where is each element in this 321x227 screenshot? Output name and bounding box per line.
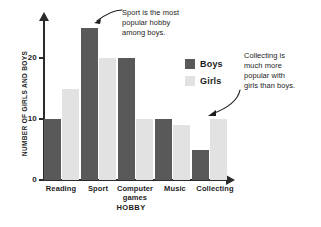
bar-reading-boys xyxy=(44,119,61,180)
annotation-collecting: Collecting is much more popular with gir… xyxy=(244,51,318,91)
x-label-collecting: Collecting xyxy=(189,184,241,193)
legend-label-girls: Girls xyxy=(200,76,222,86)
bar-collecting-boys xyxy=(192,150,209,180)
legend-label-boys: Boys xyxy=(200,59,223,69)
x-axis-title: HOBBY xyxy=(0,203,262,212)
bar-collecting-girls xyxy=(210,119,227,180)
x-label-computer-games-line2: games xyxy=(123,193,147,202)
annotation-collecting-line1: Collecting is xyxy=(244,51,318,61)
bar-reading-girls xyxy=(62,89,79,180)
legend-item-girls: Girls xyxy=(185,75,223,86)
legend-item-boys: Boys xyxy=(185,58,223,69)
legend-swatch-girls-icon xyxy=(185,76,195,86)
legend: Boys Girls xyxy=(185,58,223,92)
y-axis-arrowhead xyxy=(39,12,49,21)
bar-music-boys xyxy=(155,119,172,180)
legend-swatch-boys-icon xyxy=(185,59,195,69)
x-label-computer-games: Computer games xyxy=(110,184,160,202)
x-label-computer-games-line1: Computer xyxy=(117,184,153,193)
bar-music-girls xyxy=(173,125,190,180)
bar-computer-games-girls xyxy=(136,119,153,180)
annotation-collecting-line4: girls than boys. xyxy=(244,81,318,91)
annotation-sport-line3: among boys. xyxy=(122,28,212,38)
annotation-collecting-line2: much more xyxy=(244,61,318,71)
annotation-sport: Sport is the most popular hobby among bo… xyxy=(122,8,212,38)
annotation-collecting-line3: popular with xyxy=(244,71,318,81)
chart-canvas: 20 10 0 NUMBER OF GIRLS AND BOYS Reading… xyxy=(0,0,321,227)
bar-sport-girls xyxy=(99,58,116,180)
annotation-sport-line1: Sport is the most xyxy=(122,8,212,18)
bar-computer-games-boys xyxy=(118,58,135,180)
y-axis-title: NUMBER OF GIRLS AND BOYS xyxy=(21,39,28,169)
bar-sport-boys xyxy=(81,28,98,180)
y-tick-label-0: 0 xyxy=(13,175,37,184)
plot-area xyxy=(44,22,226,180)
annotation-sport-line2: popular hobby xyxy=(122,18,212,28)
